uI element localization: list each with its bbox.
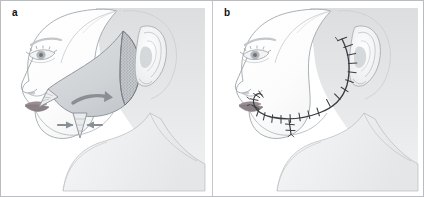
figure-container: a [0, 0, 424, 197]
panel-a-label: a [12, 7, 18, 19]
pupil [39, 53, 43, 57]
panel-a: a [1, 1, 212, 197]
panel-b-label: b [224, 7, 230, 19]
nostril [29, 91, 35, 94]
pupil [253, 53, 257, 57]
panel-b: b [213, 1, 424, 197]
panel-b-artwork [213, 1, 424, 197]
nostril [243, 91, 249, 94]
panel-a-artwork [1, 1, 212, 197]
